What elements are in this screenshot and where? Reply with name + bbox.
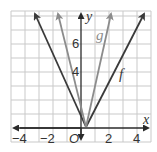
y-axis-label: y (84, 9, 93, 24)
label-g: g (96, 27, 104, 43)
y-tick-6: 6 (72, 36, 79, 51)
y-tick-4: 4 (72, 64, 79, 79)
x-tick-neg4: −4 (12, 131, 27, 146)
origin-label: O (69, 131, 79, 146)
x-tick-2: 2 (105, 131, 112, 146)
label-f: f (119, 66, 125, 82)
x-tick-neg2: −2 (40, 131, 55, 146)
x-axis-label: x (142, 112, 150, 127)
x-tick-4: 4 (133, 131, 140, 146)
coordinate-graph: g f y x −4 −2 2 4 4 6 O (0, 0, 157, 152)
